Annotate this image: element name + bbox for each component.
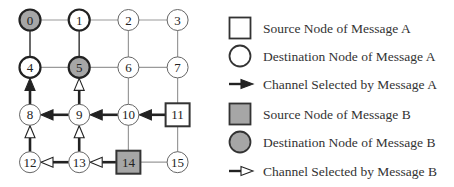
node-label: 9 (76, 107, 83, 122)
channel-message-b-13-to-9 (74, 126, 84, 152)
gray-circle-icon (230, 132, 251, 153)
mesh-node-4: 4 (20, 57, 41, 78)
legend-item: Source Node of Message A (230, 18, 411, 39)
mesh-grid-lines (30, 20, 178, 162)
node-label: 15 (171, 155, 184, 170)
channel-message-b-12-to-8 (25, 126, 35, 152)
mesh-node-14: 14 (116, 151, 140, 174)
hollow-arrow-icon (241, 167, 253, 176)
node-label: 12 (24, 155, 37, 170)
hollow-arrowhead-icon (74, 78, 84, 90)
mesh-node-12: 12 (20, 152, 41, 173)
legend-label: Destination Node of Message B (263, 135, 435, 150)
hollow-arrowhead-icon (41, 157, 53, 167)
node-label: 11 (171, 107, 184, 122)
legend-item: Destination Node of Message A (230, 46, 436, 67)
mesh-node-8: 8 (20, 104, 41, 125)
mesh-node-11: 11 (166, 103, 190, 126)
legend-label: Destination Node of Message A (263, 49, 436, 64)
mesh-node-0: 0 (20, 10, 41, 31)
filled-arrowhead-icon (90, 110, 102, 120)
white-square-icon (230, 18, 251, 39)
node-label: 7 (174, 60, 181, 75)
legend-item: Destination Node of Message B (230, 132, 436, 153)
legend-item: Source Node of Message B (230, 104, 411, 125)
legend-label: Channel Selected by Message A (263, 77, 437, 92)
mesh-node-13: 13 (69, 152, 90, 173)
hollow-arrowhead-icon (25, 126, 35, 138)
white-circle-icon (230, 46, 251, 67)
filled-arrowhead-icon (25, 78, 35, 90)
legend-item: Channel Selected by Message A (229, 77, 437, 92)
legend-item: Channel Selected by Message B (229, 164, 437, 179)
gray-square-icon (230, 104, 251, 125)
mesh-node-10: 10 (118, 104, 139, 125)
mesh-nodes: 0123456789101112131415 (20, 10, 190, 174)
node-label: 0 (27, 13, 34, 28)
node-label: 8 (27, 107, 34, 122)
node-label: 13 (73, 155, 86, 170)
mesh-routing-diagram: 0123456789101112131415 Source Node of Me… (0, 0, 454, 187)
hollow-arrowhead-icon (90, 157, 102, 167)
channel-message-b-13-to-12 (41, 157, 69, 167)
mesh-node-5: 5 (69, 57, 90, 78)
mesh-node-3: 3 (167, 10, 188, 31)
mesh-node-2: 2 (118, 10, 139, 31)
filled-arrowhead-icon (41, 110, 53, 120)
node-label: 3 (174, 13, 181, 28)
channel-message-a-10-to-9 (90, 110, 118, 120)
filled-arrow-icon (241, 80, 253, 89)
node-label: 2 (125, 13, 132, 28)
mesh-node-6: 6 (118, 57, 139, 78)
node-label: 14 (122, 155, 136, 170)
mesh-node-9: 9 (69, 104, 90, 125)
mesh-node-15: 15 (167, 152, 188, 173)
channel-message-b-14-to-13 (90, 157, 116, 167)
legend-label: Source Node of Message B (263, 107, 411, 122)
channel-message-b-9-to-5 (74, 78, 84, 104)
node-label: 1 (76, 13, 83, 28)
selected-channels (25, 78, 165, 167)
mesh-node-7: 7 (167, 57, 188, 78)
channel-message-a-8-to-4 (25, 78, 35, 104)
legend: Source Node of Message ADestination Node… (229, 18, 437, 179)
legend-label: Source Node of Message A (263, 21, 411, 36)
channel-message-a-9-to-8 (41, 110, 69, 120)
node-label: 5 (76, 60, 83, 75)
node-label: 10 (122, 107, 135, 122)
node-label: 4 (27, 60, 34, 75)
channel-message-a-11-to-10 (139, 110, 165, 120)
mesh-node-1: 1 (69, 10, 90, 31)
filled-arrowhead-icon (139, 110, 151, 120)
node-label: 6 (125, 60, 132, 75)
hollow-arrowhead-icon (74, 126, 84, 138)
legend-label: Channel Selected by Message B (263, 164, 437, 179)
